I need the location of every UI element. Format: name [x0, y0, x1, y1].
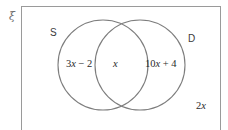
region-d-only-suffix: + 4 — [160, 58, 176, 69]
region-intersection-variable: x — [113, 58, 118, 69]
region-outside-variable: x — [201, 100, 206, 111]
set-label-s: S — [50, 28, 57, 38]
set-label-d: D — [188, 34, 195, 44]
region-label-s-only: 3x − 2 — [66, 59, 92, 70]
region-label-d-only: 10x + 4 — [145, 59, 177, 70]
region-label-outside: 2x — [196, 101, 206, 112]
region-s-only-suffix: − 2 — [76, 58, 92, 69]
venn-diagram-figure: ξ S D 3x − 2 x 10x + 4 2x — [0, 0, 228, 130]
region-label-intersection: x — [113, 59, 118, 70]
region-d-only-prefix: 10 — [145, 58, 156, 69]
